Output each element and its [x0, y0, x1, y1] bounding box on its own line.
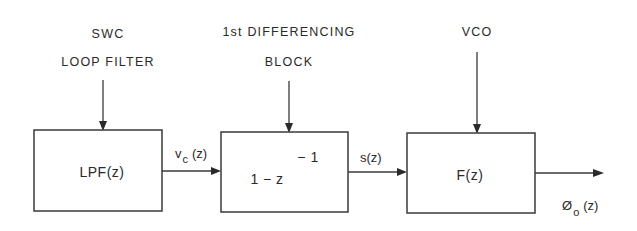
diff-input-arrow [285, 81, 293, 133]
block-diagram: SWC LOOP FILTER 1st DIFFERENCING BLOCK V… [0, 0, 637, 231]
lpf-title: SWC LOOP FILTER [61, 27, 154, 69]
diff-block-exponent: − 1 [297, 149, 318, 165]
diff-block: 1 − z − 1 [221, 132, 348, 212]
vco-title: VCO [462, 25, 493, 39]
vc-signal-arrow: vc(z) [162, 146, 221, 175]
s-signal-arrow: s(z) [348, 150, 407, 176]
vc-signal-label: vc(z) [175, 146, 207, 165]
lpf-block-label: LPF(z) [80, 164, 125, 180]
lpf-title-line-1: SWC [92, 27, 125, 41]
vco-block-label: F(z) [457, 167, 484, 183]
diff-title-line-2: BLOCK [265, 55, 313, 69]
diff-title-line-1: 1st DIFFERENCING [222, 25, 355, 39]
lpf-input-arrow [99, 80, 107, 131]
lpf-title-line-2: LOOP FILTER [61, 55, 154, 69]
arrowhead-icon [211, 167, 221, 175]
lpf-block: LPF(z) [34, 130, 162, 211]
diff-block-label: 1 − z [250, 171, 283, 187]
vco-block: F(z) [407, 133, 535, 213]
vco-input-arrow [473, 52, 481, 134]
arrowhead-icon [397, 168, 407, 176]
s-signal-label: s(z) [360, 150, 382, 165]
diff-title: 1st DIFFERENCING BLOCK [222, 25, 355, 69]
output-signal-label: Øo(z) [562, 198, 598, 218]
output-signal-arrow: Øo(z) [535, 169, 604, 218]
arrowhead-icon [593, 169, 604, 177]
